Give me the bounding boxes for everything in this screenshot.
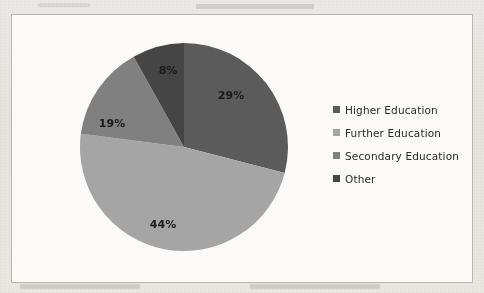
legend-item-label: Secondary Education: [345, 150, 459, 162]
pie-label-higher-education: 29%: [218, 89, 244, 102]
chart-plot-area: 29% 44% 19% 8% Higher Education Further …: [12, 15, 472, 282]
legend-swatch-icon: [333, 152, 340, 159]
pie-chart-svg: 29% 44% 19% 8%: [78, 41, 290, 253]
pie-label-other: 8%: [159, 64, 178, 77]
legend-item-other[interactable]: Other: [333, 168, 473, 189]
pie-chart[interactable]: 29% 44% 19% 8%: [78, 41, 290, 253]
legend-item-label: Further Education: [345, 127, 441, 139]
legend-item-higher-education[interactable]: Higher Education: [333, 99, 473, 120]
legend-item-label: Higher Education: [345, 104, 438, 116]
pie-label-further-education: 44%: [150, 218, 176, 231]
legend-item-label: Other: [345, 173, 376, 185]
chart-frame[interactable]: 29% 44% 19% 8% Higher Education Further …: [11, 14, 473, 283]
legend-swatch-icon: [333, 106, 340, 113]
legend-item-further-education[interactable]: Further Education: [333, 122, 473, 143]
legend-swatch-icon: [333, 129, 340, 136]
pie-slices: [80, 43, 288, 251]
pie-label-secondary-education: 19%: [99, 117, 125, 130]
legend-swatch-icon: [333, 175, 340, 182]
legend-item-secondary-education[interactable]: Secondary Education: [333, 145, 473, 166]
chart-legend: Higher Education Further Education Secon…: [333, 99, 473, 191]
